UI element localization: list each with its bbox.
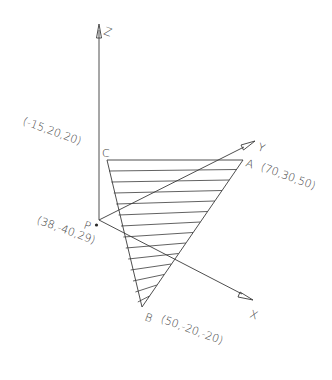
point-a-coords: (70,30,50) — [259, 161, 318, 193]
x-axis: X — [99, 220, 260, 322]
point-c-coords: (-15,20,20) — [21, 115, 83, 148]
point-b-label: B — [143, 311, 154, 326]
point-a-label: A — [244, 157, 256, 172]
point-c-label: C — [102, 147, 110, 160]
point-p-dot — [95, 223, 98, 226]
plane-hatching — [109, 170, 237, 303]
x-axis-label: X — [248, 308, 260, 323]
y-axis: Y — [99, 141, 267, 220]
diagram-canvas: Z Y X P (38,- — [0, 0, 332, 380]
point-b-coords: (50,-20,-20) — [159, 313, 225, 348]
point-p: P (38,-40,29) — [35, 214, 98, 247]
z-axis: Z — [97, 24, 114, 220]
z-axis-label: Z — [102, 25, 114, 40]
y-axis-label: Y — [256, 141, 267, 156]
y-arrow-icon — [241, 141, 255, 150]
